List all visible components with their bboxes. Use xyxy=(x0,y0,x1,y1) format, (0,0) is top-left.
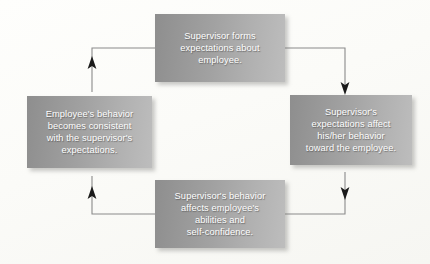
process-box-expectations-affect-behavior[interactable]: Supervisor's expectations affect his/her… xyxy=(290,95,412,165)
process-box-label: Supervisor's behavior affects employee's… xyxy=(175,190,266,238)
process-box-behavior-affects-abilities[interactable]: Supervisor's behavior affects employee's… xyxy=(155,180,285,248)
process-box-supervisor-forms-expectations[interactable]: Supervisor forms expectations about empl… xyxy=(155,14,285,82)
edge-right-to-bottom xyxy=(285,172,349,214)
process-box-label: Supervisor forms expectations about empl… xyxy=(180,30,260,66)
process-box-employee-behavior-consistent[interactable]: Employee's behavior becomes consistent w… xyxy=(27,96,152,168)
edge-top-to-right xyxy=(285,48,349,95)
process-box-label: Supervisor's expectations affect his/her… xyxy=(306,106,397,154)
process-box-label: Employee's behavior becomes consistent w… xyxy=(46,108,134,156)
cycle-diagram: Supervisor forms expectations about empl… xyxy=(0,0,430,264)
edge-left-to-top xyxy=(88,48,155,92)
edge-bottom-to-left xyxy=(88,176,155,214)
